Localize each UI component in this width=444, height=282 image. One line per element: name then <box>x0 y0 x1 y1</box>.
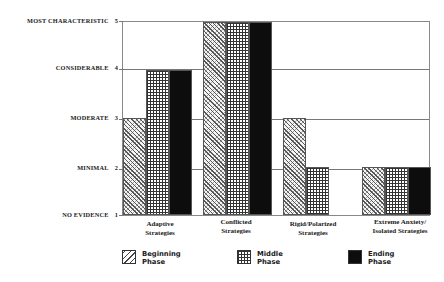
category-line2: Strategies <box>206 227 266 236</box>
legend-label: Ending Phase <box>368 250 394 266</box>
category-label-extreme: Extreme Anxiety/ Isolated Strategies <box>360 218 440 236</box>
tick-1 <box>119 215 123 216</box>
legend-line1: Ending <box>368 250 394 258</box>
category-line1: Adaptive <box>130 220 190 229</box>
y-tick-label-1: NO EVIDENCE1 <box>62 211 118 219</box>
bar-ending-1 <box>249 22 272 215</box>
bar-middle-0 <box>146 70 169 215</box>
legend-line2: Phase <box>142 258 181 266</box>
bar-beginning-2 <box>283 118 306 215</box>
category-line1: Rigid/Polarized <box>278 220 348 229</box>
y-label-num: 1 <box>115 211 118 219</box>
legend-line2: Phase <box>368 258 394 266</box>
grid-hatch-swatch-icon <box>237 250 251 264</box>
legend-item-ending: Ending Phase <box>348 250 394 266</box>
bar-beginning-1 <box>203 22 226 215</box>
bar-middle-2 <box>306 167 329 215</box>
bar-ending-3 <box>408 167 431 215</box>
category-label-conflicted: Conflicted Strategies <box>206 218 266 236</box>
category-line2: Isolated Strategies <box>360 227 440 236</box>
y-label-num: 4 <box>115 64 118 72</box>
diagonal-hatch-swatch-icon <box>122 250 136 264</box>
tick-5 <box>119 21 123 22</box>
category-label-rigid: Rigid/Polarized Strategies <box>278 220 348 238</box>
bar-ending-0 <box>169 70 192 215</box>
y-tick-label-5: MOST CHARACTERISTIC5 <box>27 17 118 25</box>
legend-line1: Middle <box>257 250 283 258</box>
y-label-text: MODERATE <box>70 114 108 121</box>
legend-line1: Beginning <box>142 250 181 258</box>
y-tick-label-3: MODERATE3 <box>70 114 118 122</box>
tick-4 <box>119 69 123 70</box>
category-line2: Strategies <box>130 229 190 238</box>
legend-label: Middle Phase <box>257 250 283 266</box>
y-label-num: 2 <box>115 164 118 172</box>
plot-area <box>122 21 430 216</box>
legend-label: Beginning Phase <box>142 250 181 266</box>
y-tick-label-4: CONSIDERABLE4 <box>56 64 118 72</box>
y-label-text: MOST CHARACTERISTIC <box>27 17 109 24</box>
category-line1: Conflicted <box>206 218 266 227</box>
bar-middle-3 <box>385 167 408 215</box>
legend-item-beginning: Beginning Phase <box>122 250 181 266</box>
category-line2: Strategies <box>278 229 348 238</box>
category-label-adaptive: Adaptive Strategies <box>130 220 190 238</box>
category-line1: Extreme Anxiety/ <box>360 218 440 227</box>
bar-middle-1 <box>226 22 249 215</box>
y-label-num: 3 <box>115 114 118 122</box>
legend-item-middle: Middle Phase <box>237 250 283 266</box>
y-label-num: 5 <box>115 17 118 25</box>
legend-line2: Phase <box>257 258 283 266</box>
bar-beginning-0 <box>123 118 146 215</box>
y-label-text: NO EVIDENCE <box>62 211 108 218</box>
y-label-text: MINIMAL <box>77 164 108 171</box>
y-tick-label-2: MINIMAL2 <box>77 164 118 172</box>
bar-beginning-3 <box>362 167 385 215</box>
y-label-text: CONSIDERABLE <box>56 64 109 71</box>
solid-black-swatch-icon <box>348 250 362 264</box>
